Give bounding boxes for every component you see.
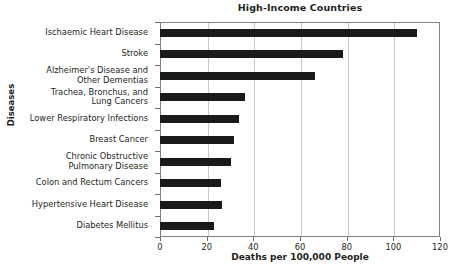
bar-chart: High-Income Countries Diseases Ischaemic…	[0, 0, 452, 265]
x-axis-tick-label: 40	[233, 242, 273, 252]
bar-row	[160, 194, 440, 216]
bar	[160, 50, 343, 58]
y-axis-tick-label: Lower Respiratory Infections	[0, 114, 148, 124]
x-axis-tick	[347, 237, 348, 241]
x-axis-tick-label: 120	[420, 242, 452, 252]
x-axis-tick-label: 80	[327, 242, 367, 252]
x-axis-tick	[300, 237, 301, 241]
x-axis-tick-label: 60	[280, 242, 320, 252]
bar-row	[160, 87, 440, 109]
bar	[160, 201, 222, 209]
y-axis-tick	[155, 194, 160, 195]
bar-row	[160, 151, 440, 173]
bar-row	[160, 173, 440, 195]
y-axis-tick-label: Trachea, Bronchus, andLung Cancers	[0, 88, 148, 107]
x-axis-tick	[253, 237, 254, 241]
bar	[160, 136, 234, 144]
y-axis-tick	[155, 130, 160, 131]
bar	[160, 115, 239, 123]
x-axis-tick-label: 100	[373, 242, 413, 252]
y-axis-tick	[155, 44, 160, 45]
bar	[160, 158, 231, 166]
bar-row	[160, 216, 440, 238]
bar	[160, 93, 245, 101]
bar-row	[160, 130, 440, 152]
x-axis-tick-label: 20	[187, 242, 227, 252]
bar	[160, 29, 417, 37]
y-axis-tick-label: Chronic ObstructivePulmonary Disease	[0, 152, 148, 171]
y-axis-tick	[155, 237, 160, 238]
y-axis-tick-label: Diabetes Mellitus	[0, 221, 148, 231]
x-axis-title: Deaths per 100,000 People	[160, 252, 440, 262]
y-axis-tick	[155, 65, 160, 66]
y-axis-tick-labels: Ischaemic Heart DiseaseStrokeAlzheimer's…	[0, 22, 155, 237]
bar	[160, 72, 315, 80]
bar-row	[160, 108, 440, 130]
y-axis-tick	[155, 22, 160, 23]
bar-row	[160, 65, 440, 87]
x-axis-tick	[440, 237, 441, 241]
x-axis-tick	[393, 237, 394, 241]
x-axis-tick	[207, 237, 208, 241]
bar	[160, 222, 214, 230]
y-axis-tick-label: Alzheimer's Disease andOther Dementias	[0, 66, 148, 85]
y-axis-tick-label: Hypertensive Heart Disease	[0, 200, 148, 210]
y-axis-tick	[155, 173, 160, 174]
y-axis-tick	[155, 216, 160, 217]
bar-row	[160, 44, 440, 66]
bar-row	[160, 22, 440, 44]
bars-layer	[160, 22, 440, 237]
y-axis-tick	[155, 108, 160, 109]
y-axis-tick	[155, 87, 160, 88]
y-axis-tick-label: Colon and Rectum Cancers	[0, 178, 148, 188]
y-axis-tick-label: Stroke	[0, 49, 148, 59]
x-axis-tick-label: 0	[140, 242, 180, 252]
y-axis-tick-label: Ischaemic Heart Disease	[0, 28, 148, 38]
chart-title: High-Income Countries	[160, 2, 440, 13]
y-axis-tick-label: Breast Cancer	[0, 135, 148, 145]
y-axis-tick	[155, 151, 160, 152]
bar	[160, 179, 221, 187]
x-axis-tick	[160, 237, 161, 241]
